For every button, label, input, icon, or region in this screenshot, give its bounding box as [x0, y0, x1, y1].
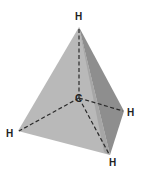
tetrahedron-figure: H C H H H — [0, 0, 142, 176]
atom-label-h-bottom: H — [109, 157, 116, 168]
atom-label-c: C — [75, 93, 82, 104]
atom-label-h-left: H — [6, 128, 13, 139]
atom-label-h-right: H — [127, 107, 134, 118]
atom-label-h-top: H — [75, 11, 82, 22]
methane-tetrahedron-diagram: H C H H H — [0, 0, 142, 176]
